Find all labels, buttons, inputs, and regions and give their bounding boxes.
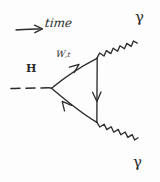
time-axis-label: time bbox=[44, 17, 72, 29]
higgs-particle-label: H bbox=[26, 63, 36, 74]
feynman-diagram-canvas: time H W,t γ γ bbox=[0, 0, 160, 182]
higgs-dashed-line bbox=[11, 88, 51, 89]
loop-particle-label: W,t bbox=[56, 50, 71, 59]
time-arrow bbox=[16, 25, 43, 32]
photon-line-top bbox=[97, 41, 137, 58]
loop-edge-right bbox=[93, 58, 101, 122]
loop-edge-upper bbox=[52, 58, 98, 88]
loop-edge-lower bbox=[52, 89, 97, 123]
photon-line-bottom bbox=[97, 122, 138, 140]
photon-top-label: γ bbox=[135, 10, 144, 25]
photon-bottom-label: γ bbox=[133, 155, 142, 170]
